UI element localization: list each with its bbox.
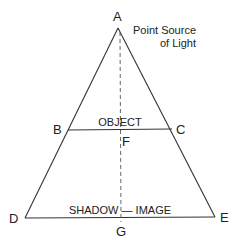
shadow-line-de [25,217,215,218]
shadow-formation-diagram: A B C F D E G Point Source of Light OBJE… [0,0,237,245]
light-source-label-line2: of Light [160,37,196,49]
point-label-a: A [113,9,122,24]
point-label-d: D [9,211,18,226]
object-line-bc [68,129,172,130]
point-label-e: E [220,210,229,225]
point-label-f: F [122,134,130,149]
object-label: OBJECT [98,116,142,128]
point-label-b: B [53,122,62,137]
point-label-c: C [176,122,185,137]
shadow-image-label: SHADOW — IMAGE [69,204,171,216]
point-label-g: G [116,224,126,239]
light-source-label-line1: Point Source [133,24,196,36]
